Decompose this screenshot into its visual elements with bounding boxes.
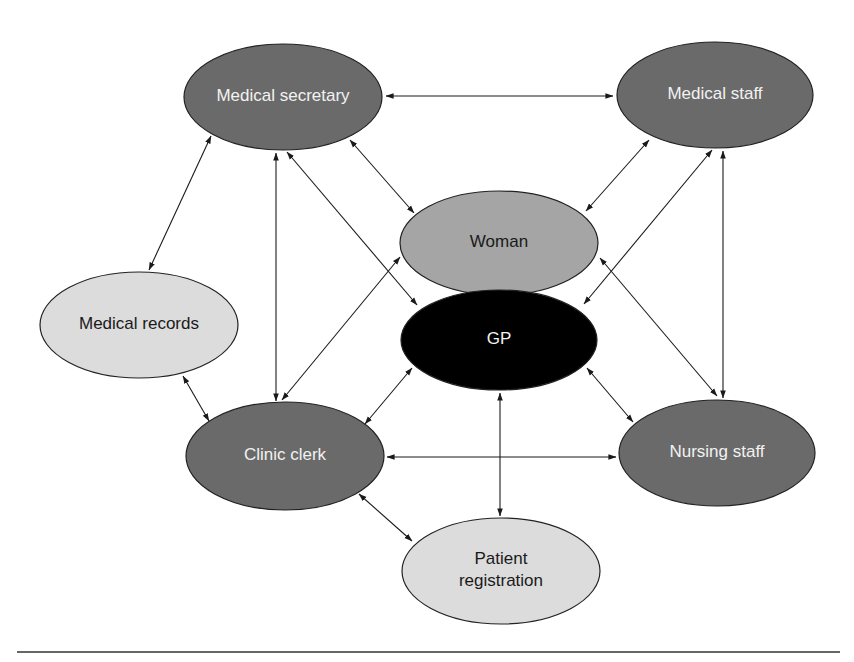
edge-woman-to-clinic-clerk	[282, 257, 400, 400]
edge-medical-staff-to-woman	[586, 140, 649, 211]
edge-medical-secretary-to-medical-records	[149, 136, 211, 270]
node-label: Medical staff	[667, 84, 762, 103]
nodes-layer: Medical secretaryMedical staffWomanGPMed…	[40, 42, 815, 624]
node-label: GP	[487, 329, 512, 348]
node-medical-staff: Medical staff	[617, 42, 813, 148]
node-nursing-staff: Nursing staff	[619, 400, 815, 506]
edge-clinic-clerk-to-patient-registration	[359, 494, 412, 541]
node-clinic-clerk: Clinic clerk	[186, 402, 384, 510]
edge-gp-to-nursing-staff	[587, 368, 633, 422]
node-label: registration	[459, 571, 543, 590]
edge-medical-secretary-to-woman	[350, 140, 414, 213]
node-medical-records: Medical records	[40, 272, 238, 378]
node-patient-registration: Patientregistration	[402, 518, 600, 624]
edge-medical-staff-to-gp	[584, 150, 712, 304]
edge-woman-to-nursing-staff	[600, 258, 717, 396]
care-network-diagram: Medical secretaryMedical staffWomanGPMed…	[0, 0, 854, 662]
node-label: Medical secretary	[216, 86, 350, 105]
node-label: Medical records	[79, 314, 199, 333]
node-label: Woman	[470, 232, 528, 251]
edge-gp-to-clinic-clerk	[365, 368, 412, 424]
edge-medical-secretary-to-gp	[287, 152, 417, 305]
node-medical-secretary: Medical secretary	[184, 44, 382, 150]
node-woman: Woman	[400, 191, 598, 295]
node-label: Clinic clerk	[244, 445, 327, 464]
node-label: Nursing staff	[669, 442, 764, 461]
edge-medical-records-to-clinic-clerk	[183, 376, 209, 421]
node-gp: GP	[401, 290, 597, 390]
node-label: Patient	[475, 549, 528, 568]
